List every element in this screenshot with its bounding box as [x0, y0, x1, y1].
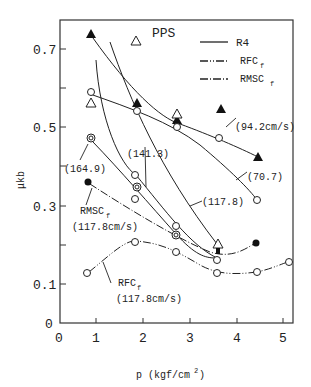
- y-tick-label: 0.7: [33, 43, 56, 58]
- legend: R4 RFC f RMSC f: [200, 37, 274, 88]
- annotation-rmsc-speed: (117.8cm/s): [72, 222, 138, 233]
- annotation-rfc: RFC: [118, 278, 136, 289]
- x-tick-labels: 0 1 2 3 4 5: [55, 331, 287, 346]
- svg-text:f: f: [106, 212, 110, 220]
- x-tick-label: 4: [233, 331, 241, 346]
- annotation-70-7: (70.7): [247, 172, 283, 183]
- y-tick-label: 0.3: [33, 200, 56, 215]
- svg-text:f: f: [137, 284, 141, 292]
- x-tick-label: 1: [92, 331, 100, 346]
- filled-circle-markers: [85, 179, 260, 255]
- chart: 0.7 0.5 0.3 0.1 0 0 1 2 3 4 5 μkb p (kgf…: [0, 0, 311, 387]
- annotation-94-2: (94.2cm/s): [235, 122, 295, 133]
- y-tick-labels: 0.7 0.5 0.3 0.1 0: [33, 43, 57, 332]
- y-tick-label: 0.1: [33, 278, 57, 293]
- x-ticks: [96, 318, 283, 323]
- x-tick-label: 5: [279, 331, 287, 346]
- x-tick-label: 3: [186, 331, 194, 346]
- svg-text:f: f: [270, 80, 274, 88]
- annotation-rmsc: RMSC: [80, 206, 104, 217]
- annotation-rfc-speed: (117.8cm/s): [116, 294, 182, 305]
- legend-label-rmsc: RMSC: [240, 74, 264, 85]
- curve-117-8: [110, 42, 217, 244]
- annotation-141-3: (141.3): [127, 149, 169, 160]
- curve-70-7: [90, 94, 257, 200]
- svg-text:2: 2: [194, 367, 198, 375]
- x-tick-label: 0: [55, 331, 63, 346]
- annotation-164-9: (164.9): [64, 164, 106, 175]
- annotation-117-8: (117.8): [202, 197, 244, 208]
- legend-label-rfc: RFC: [240, 56, 258, 67]
- legend-label-r4: R4: [236, 37, 250, 49]
- annotations: (94.2cm/s) (70.7) (117.8) (141.3) (164.9…: [64, 122, 295, 305]
- y-tick-label: 0: [45, 317, 53, 332]
- x-tick-label: 2: [139, 331, 147, 346]
- y-tick-label: 0.5: [33, 121, 56, 136]
- svg-text:): ): [199, 370, 205, 381]
- chart-title: PPS: [152, 26, 176, 41]
- svg-text:f: f: [260, 62, 264, 70]
- y-axis-label: μkb: [16, 171, 27, 189]
- curve-94-2: [93, 38, 258, 157]
- svg-text:p (kgf/cm: p (kgf/cm: [136, 370, 190, 381]
- x-axis-label: p (kgf/cm 2 ): [136, 367, 205, 381]
